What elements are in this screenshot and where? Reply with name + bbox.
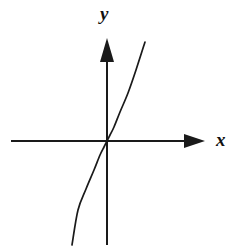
x-axis-arrowhead-icon bbox=[184, 134, 205, 148]
y-axis-label: y bbox=[100, 4, 108, 23]
graph-figure: y x bbox=[0, 0, 248, 251]
cubic-curve-path bbox=[72, 42, 145, 245]
coordinate-plane-svg bbox=[0, 0, 248, 251]
x-axis-label: x bbox=[216, 130, 226, 149]
y-axis-arrowhead-icon bbox=[100, 38, 114, 62]
